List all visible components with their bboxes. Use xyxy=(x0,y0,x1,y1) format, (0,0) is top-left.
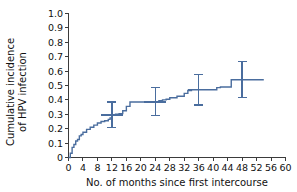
y-tick-label: 0.9 xyxy=(48,22,63,33)
y-tick-label: 0.4 xyxy=(48,94,63,105)
x-tick-label: 60 xyxy=(279,162,291,173)
x-tick-label: 16 xyxy=(120,162,132,173)
chart-figure: 00.10.20.30.40.50.60.70.80.91.0 04812162… xyxy=(0,0,297,192)
x-tick-label: 48 xyxy=(236,162,248,173)
x-tick-label: 4 xyxy=(80,162,86,173)
x-tick-label: 28 xyxy=(164,162,176,173)
y-tick-label: 0.1 xyxy=(48,138,63,149)
x-tick-label: 20 xyxy=(135,162,147,173)
x-tick-label: 36 xyxy=(193,162,205,173)
x-tick-label: 8 xyxy=(94,162,100,173)
x-axis-tick-labels: 04812162024283236404448525660 xyxy=(65,162,291,173)
y-tick-label: 0.2 xyxy=(48,123,63,134)
x-tick-label: 24 xyxy=(149,162,161,173)
y-tick-label: 0.6 xyxy=(48,66,63,77)
x-tick-label: 56 xyxy=(265,162,277,173)
y-tick-label: 0 xyxy=(57,152,63,163)
y-axis-title-line1: Cumulative incidence xyxy=(5,38,16,146)
y-tick-label: 1.0 xyxy=(48,8,63,19)
y-axis-tick-labels: 00.10.20.30.40.50.60.70.80.91.0 xyxy=(48,8,63,163)
y-tick-label: 0.8 xyxy=(48,37,63,48)
x-tick-label: 52 xyxy=(251,162,263,173)
x-tick-label: 44 xyxy=(222,162,234,173)
x-tick-label: 32 xyxy=(178,162,190,173)
x-axis-title: No. of months since first intercourse xyxy=(86,177,268,188)
y-axis-title-line2: of HPV infection xyxy=(17,52,28,132)
x-tick-label: 0 xyxy=(65,162,71,173)
hpv-cumulative-incidence-chart: 00.10.20.30.40.50.60.70.80.91.0 04812162… xyxy=(0,0,297,192)
x-tick-label: 40 xyxy=(207,162,219,173)
x-tick-label: 12 xyxy=(106,162,118,173)
y-tick-label: 0.7 xyxy=(48,51,63,62)
y-tick-label: 0.3 xyxy=(48,109,63,120)
y-tick-label: 0.5 xyxy=(48,80,63,91)
